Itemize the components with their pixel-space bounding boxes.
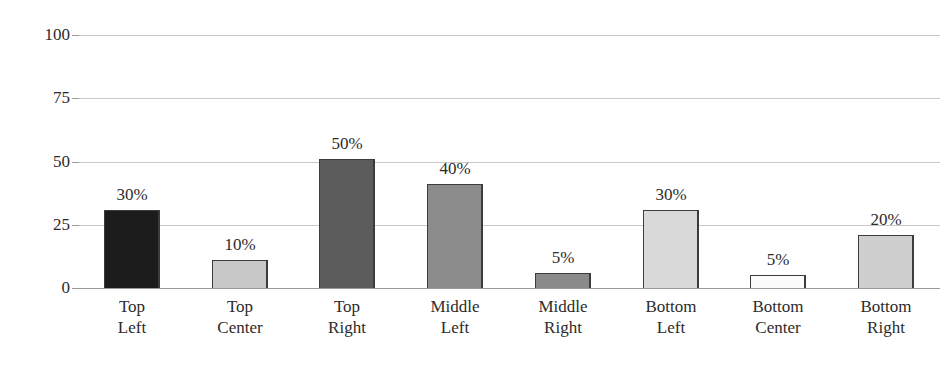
x-axis-label-line-1: Top bbox=[187, 296, 293, 317]
x-axis-category-label: TopRight bbox=[294, 296, 400, 338]
x-axis-label-line-1: Middle bbox=[510, 296, 616, 317]
x-axis-category-label: MiddleRight bbox=[510, 296, 616, 338]
x-axis-label-line-1: Middle bbox=[402, 296, 508, 317]
x-axis-label-line-2: Right bbox=[833, 317, 939, 338]
x-axis-category-label: TopCenter bbox=[187, 296, 293, 338]
x-axis-label-line-1: Top bbox=[294, 296, 400, 317]
x-axis-category-label: BottomLeft bbox=[618, 296, 724, 338]
x-axis-labels-layer: TopLeftTopCenterTopRightMiddleLeftMiddle… bbox=[0, 0, 949, 369]
x-axis-category-label: BottomRight bbox=[833, 296, 939, 338]
x-axis-label-line-1: Bottom bbox=[833, 296, 939, 317]
x-axis-label-line-2: Left bbox=[618, 317, 724, 338]
x-axis-label-line-1: Bottom bbox=[618, 296, 724, 317]
x-axis-label-line-1: Top bbox=[79, 296, 185, 317]
x-axis-label-line-2: Left bbox=[402, 317, 508, 338]
x-axis-label-line-1: Bottom bbox=[725, 296, 831, 317]
x-axis-category-label: MiddleLeft bbox=[402, 296, 508, 338]
bar-chart: 0255075100 30%10%50%40%5%30%5%20% TopLef… bbox=[0, 0, 949, 369]
x-axis-label-line-2: Right bbox=[294, 317, 400, 338]
x-axis-label-line-2: Center bbox=[725, 317, 831, 338]
x-axis-label-line-2: Right bbox=[510, 317, 616, 338]
x-axis-label-line-2: Center bbox=[187, 317, 293, 338]
x-axis-category-label: BottomCenter bbox=[725, 296, 831, 338]
x-axis-label-line-2: Left bbox=[79, 317, 185, 338]
x-axis-category-label: TopLeft bbox=[79, 296, 185, 338]
